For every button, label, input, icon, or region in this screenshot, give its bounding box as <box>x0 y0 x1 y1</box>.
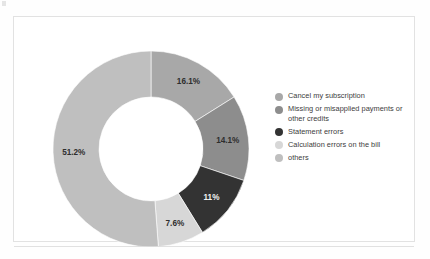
donut-chart-svg: 16.1%14.1%11%7.6%51.2% <box>51 49 251 249</box>
chart-legend: Cancel my subscriptionMissing or misappl… <box>275 91 420 166</box>
donut-slice-label: 51.2% <box>62 148 86 157</box>
legend-item-label: Missing or misapplied payments or other … <box>288 104 416 123</box>
legend-item[interactable]: Calculation errors on the bill <box>275 140 420 150</box>
chart-frame: 16.1%14.1%11%7.6%51.2% Cancel my subscri… <box>13 16 415 242</box>
legend-swatch-circle-icon <box>275 93 283 101</box>
donut-chart: 16.1%14.1%11%7.6%51.2% <box>51 49 251 249</box>
legend-item-label: others <box>288 153 309 163</box>
legend-item-label: Statement errors <box>288 127 343 137</box>
page-canvas: 16.1%14.1%11%7.6%51.2% Cancel my subscri… <box>0 0 430 259</box>
legend-item[interactable]: Missing or misapplied payments or other … <box>275 104 420 123</box>
legend-item[interactable]: Statement errors <box>275 127 420 137</box>
legend-item-label: Cancel my subscription <box>288 91 365 101</box>
legend-swatch-circle-icon <box>275 106 283 114</box>
donut-slice-label: 14.1% <box>216 136 240 145</box>
legend-item-label: Calculation errors on the bill <box>288 140 380 150</box>
legend-item[interactable]: Cancel my subscription <box>275 91 420 101</box>
donut-slice-label: 16.1% <box>177 77 201 86</box>
donut-slice-label: 11% <box>204 193 221 202</box>
scan-artifact-speck <box>2 1 6 6</box>
scan-artifact-line <box>14 246 414 247</box>
legend-swatch-circle-icon <box>275 128 283 136</box>
legend-swatch-circle-icon <box>275 141 283 149</box>
donut-slice-label: 7.6% <box>166 219 185 228</box>
legend-item[interactable]: others <box>275 153 420 163</box>
legend-swatch-circle-icon <box>275 154 283 162</box>
